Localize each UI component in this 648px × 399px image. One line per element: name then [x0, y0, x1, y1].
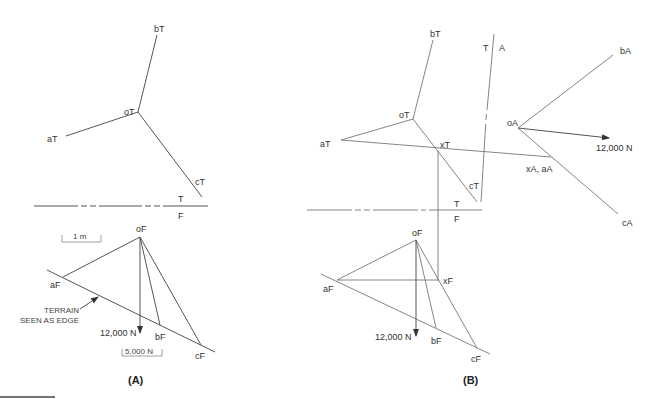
label-oF: oF — [136, 224, 147, 234]
label-aF: aF — [50, 280, 61, 290]
member-oc-front — [140, 237, 201, 345]
terrain-note-line2: SEEN AS EDGE — [20, 316, 79, 325]
label-cA: cA — [622, 218, 633, 228]
label-bT: bT — [430, 29, 441, 39]
panel-b-fold-line-ta: T A — [481, 34, 505, 202]
label-bF: bF — [431, 336, 442, 346]
member-ob-front — [416, 240, 436, 328]
member-oc-top — [138, 112, 202, 197]
caption-a: (A) — [128, 374, 144, 386]
member-oa-front — [337, 240, 416, 280]
aux-load-label: 12,000 N — [596, 143, 633, 153]
label-oF: oF — [412, 228, 423, 238]
diagram-canvas: bT oT aT cT T F 1 m — [0, 0, 648, 399]
label-xF: xF — [443, 276, 454, 286]
load-arrow-aux — [518, 128, 609, 138]
label-bT: bT — [154, 24, 165, 34]
label-bA: bA — [620, 46, 631, 56]
label-cT: cT — [469, 181, 480, 191]
fold-label-T: T — [483, 43, 489, 53]
panel-b-front-view: oF aF xF bF cF 12,000 N — [321, 228, 490, 364]
member-ob-top — [138, 35, 157, 112]
member-oa-top — [341, 119, 413, 140]
fold-label-F: F — [178, 211, 184, 221]
label-oT: oT — [399, 110, 410, 120]
label-aF: aF — [323, 284, 334, 294]
panel-a-front-view: 1 m oF aF bF cF 12,000 N TERRAIN SEEN AS… — [20, 224, 215, 361]
label-bF: bF — [155, 332, 166, 342]
label-xA-aA: xA, aA — [526, 164, 553, 174]
terrain-note-line1: TERRAIN — [44, 306, 79, 315]
label-cF: cF — [195, 351, 206, 361]
length-scale-label: 1 m — [73, 232, 87, 241]
member-oc-front — [416, 240, 477, 348]
panel-a-fold-line: T F — [34, 194, 208, 221]
panel-b-fold-line-tf: T F — [307, 199, 482, 224]
fold-label-F: F — [454, 214, 460, 224]
caption-b: (B) — [463, 374, 479, 386]
member-ob-aux — [518, 55, 613, 128]
label-oT: oT — [124, 107, 135, 117]
member-oc-top — [413, 119, 477, 202]
label-cT: cT — [195, 177, 206, 187]
force-scale-label: 5,000 N — [125, 347, 153, 356]
label-oA: oA — [507, 118, 518, 128]
label-aT: aT — [47, 134, 58, 144]
member-oa-front — [63, 237, 140, 277]
load-label: 12,000 N — [100, 328, 137, 338]
fold-label-T: T — [178, 194, 184, 204]
panel-a-top-view: bT oT aT cT — [47, 24, 206, 197]
label-aT: aT — [320, 139, 331, 149]
terrain-note-leader — [80, 297, 98, 309]
terrain-edge-line — [321, 274, 490, 354]
fold-label-T: T — [454, 199, 460, 209]
load-label-front: 12,000 N — [375, 332, 412, 342]
panel-b-top-view: bT oT aT xT cT — [320, 29, 551, 281]
panel-b: bT oT aT xT cT T A T F — [307, 29, 633, 386]
member-ob-top — [413, 40, 433, 119]
panel-b-aux-view: bA oA 12,000 N xA, aA cA — [507, 46, 633, 228]
label-xT: xT — [440, 140, 451, 150]
fold-label-A: A — [499, 43, 505, 53]
member-ob-front — [140, 237, 160, 325]
panel-a: bT oT aT cT T F 1 m — [20, 24, 215, 386]
label-cF: cF — [471, 354, 482, 364]
